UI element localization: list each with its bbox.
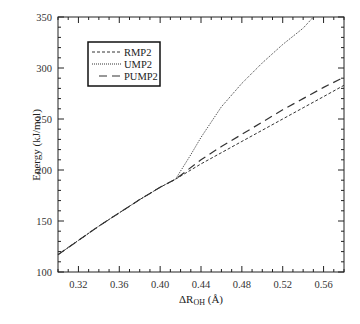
x-tick-label: 0.56 xyxy=(314,279,332,290)
legend: RMP2 UMP2 PUMP2 xyxy=(88,42,160,86)
legend-label-ump2: UMP2 xyxy=(124,59,152,70)
x-tick-label: 0.36 xyxy=(110,279,128,290)
legend-label-rmp2: RMP2 xyxy=(124,47,151,58)
series-line-rmp2 xyxy=(58,85,344,254)
x-tick-label: 0.40 xyxy=(151,279,169,290)
x-axis-title: ΔROH (Å) xyxy=(179,293,223,307)
y-tick-label: 100 xyxy=(36,267,52,278)
y-axis-title: Energy (kJ/mol) xyxy=(30,109,43,181)
x-tick-label: 0.52 xyxy=(274,279,292,290)
legend-label-pump2: PUMP2 xyxy=(124,71,158,82)
energy-chart: 0.320.360.400.440.480.520.56100150200250… xyxy=(0,0,360,324)
axis-tick-labels: 0.320.360.400.440.480.520.56100150200250… xyxy=(36,12,333,290)
y-tick-label: 300 xyxy=(36,63,52,74)
y-tick-label: 350 xyxy=(36,12,52,23)
y-tick-label: 150 xyxy=(36,216,52,227)
x-tick-label: 0.32 xyxy=(69,279,87,290)
series-line-pump2 xyxy=(58,77,344,255)
x-tick-label: 0.44 xyxy=(192,279,211,290)
x-tick-label: 0.48 xyxy=(233,279,251,290)
